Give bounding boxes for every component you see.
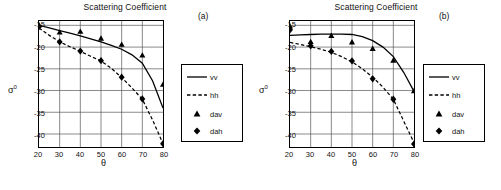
y-axis-title-b: σ0 (259, 84, 268, 95)
x-tick-label: 30 (306, 150, 314, 159)
y-tick-label: -15 (34, 20, 45, 29)
panel-label-b: (b) (439, 11, 449, 21)
legend-item-dav: dav (186, 106, 239, 122)
legend-label: dav (208, 110, 222, 119)
triangle-marker-icon (428, 109, 450, 119)
y-tick-label: -25 (34, 64, 45, 73)
legend-item-vv: vv (428, 69, 481, 85)
y-tick-label: -40 (285, 130, 296, 139)
y-tick-label: -20 (285, 42, 296, 51)
legend-item-dah: dah (428, 123, 481, 139)
x-tick-label: 80 (411, 150, 419, 159)
triangle-marker-icon (186, 109, 208, 119)
x-tick-label: 50 (97, 150, 105, 159)
x-tick-label: 60 (369, 150, 377, 159)
y-tick-label: -15 (285, 20, 296, 29)
x-tick-label: 70 (139, 150, 147, 159)
x-tick-label: 70 (390, 150, 398, 159)
y-tick-label: -25 (285, 64, 296, 73)
legend-label: hh (450, 91, 460, 100)
x-tick-label: 80 (160, 150, 168, 159)
dashed-line-icon (428, 90, 450, 100)
figure-sheet: Scattering Coefficient (a) σ0 θ (0, 0, 501, 190)
chart-panel-b: Scattering Coefficient (b) σ0 θ (251, 0, 501, 190)
legend-item-dav: dav (428, 106, 481, 122)
plot-svg-b (290, 21, 414, 147)
y-tick-label: -30 (285, 86, 296, 95)
legend-label: hh (208, 91, 218, 100)
legend-a: vv hh dav dah (181, 64, 243, 142)
dashed-line-icon (186, 90, 208, 100)
diamond-marker-icon (428, 126, 450, 136)
y-tick-label: -35 (285, 108, 296, 117)
x-tick-label: 50 (348, 150, 356, 159)
plot-area-a (38, 20, 164, 148)
legend-label: dah (450, 127, 465, 136)
legend-label: vv (450, 73, 460, 82)
x-tick-label: 20 (34, 150, 42, 159)
diamond-marker-icon (186, 126, 208, 136)
x-tick-label: 40 (76, 150, 84, 159)
legend-label: dah (208, 127, 223, 136)
solid-line-icon (186, 72, 208, 82)
plot-svg-a (39, 21, 163, 147)
y-tick-label: -30 (34, 86, 45, 95)
legend-label: dav (450, 110, 464, 119)
legend-label: vv (208, 73, 218, 82)
y-axis-title-a: σ0 (8, 84, 17, 95)
legend-b: vv hh dav dah (423, 64, 485, 142)
panel-label-a: (a) (198, 11, 208, 21)
x-tick-label: 20 (285, 150, 293, 159)
chart-panel-a: Scattering Coefficient (a) σ0 θ (0, 0, 250, 190)
x-axis-title-a: θ (101, 158, 106, 168)
legend-item-hh: hh (428, 87, 481, 103)
solid-line-icon (428, 72, 450, 82)
y-tick-label: -20 (34, 42, 45, 51)
y-tick-label: -40 (34, 130, 45, 139)
chart-title-a: Scattering Coefficient (0, 2, 250, 12)
chart-title-b: Scattering Coefficient (251, 2, 501, 12)
x-axis-title-b: θ (352, 158, 357, 168)
legend-item-dah: dah (186, 123, 239, 139)
x-tick-label: 60 (118, 150, 126, 159)
x-tick-label: 40 (327, 150, 335, 159)
x-tick-label: 30 (55, 150, 63, 159)
legend-item-vv: vv (186, 69, 239, 85)
plot-area-b (289, 20, 415, 148)
legend-item-hh: hh (186, 87, 239, 103)
y-tick-label: -35 (34, 108, 45, 117)
